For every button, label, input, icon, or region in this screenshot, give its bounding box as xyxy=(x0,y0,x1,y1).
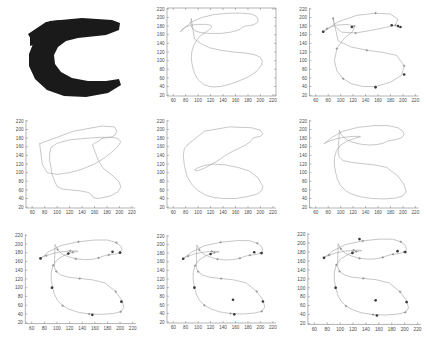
y-tick-label: 200 xyxy=(297,241,305,246)
y-tick-label: 80 xyxy=(159,179,165,184)
x-tick-label: 200 xyxy=(257,325,265,330)
x-tick-label: 220 xyxy=(269,98,277,103)
y-tick-label: 20 xyxy=(159,205,165,210)
y-tick-label: 140 xyxy=(299,41,307,46)
x-tick-label: 160 xyxy=(374,210,382,215)
keypoint-marker xyxy=(262,300,265,303)
y-tick-label: 60 xyxy=(159,76,165,81)
y-tick-label: 20 xyxy=(302,93,308,98)
x-axis-ticks: 6080100120140160180200220 xyxy=(171,321,277,330)
y-tick-label: 20 xyxy=(18,320,24,325)
keypoint-marker xyxy=(405,301,408,304)
y-tick-label: 220 xyxy=(299,7,307,12)
y-tick-label: 80 xyxy=(159,67,165,72)
y-tick-label: 40 xyxy=(302,196,308,201)
x-axis-ticks: 6080100120140160180200220 xyxy=(312,322,422,331)
x-tick-label: 60 xyxy=(29,326,35,331)
x-tick-label: 160 xyxy=(374,98,382,103)
series-reconstructed-contour xyxy=(183,241,265,314)
x-tick-label: 100 xyxy=(53,210,61,215)
keypoint-marker xyxy=(403,73,406,76)
x-tick-label: 220 xyxy=(414,327,422,332)
keypoint-marker xyxy=(334,286,337,289)
x-tick-label: 200 xyxy=(257,98,265,103)
y-tick-label: 180 xyxy=(157,251,165,256)
x-tick-label: 80 xyxy=(325,327,331,332)
axis-frame xyxy=(167,120,276,208)
y-tick-label: 200 xyxy=(157,242,165,247)
plot-panel-9: 2040608010012014016018020022060801001201… xyxy=(282,224,427,342)
keypoint-marker xyxy=(111,250,114,253)
x-tick-label: 220 xyxy=(269,210,277,215)
y-tick-label: 140 xyxy=(297,268,305,273)
x-tick-label: 180 xyxy=(387,210,395,215)
x-tick-label: 200 xyxy=(257,210,265,215)
y-tick-label: 40 xyxy=(18,196,24,201)
grid-cell-5: 2040608010012014016018020022060801001201… xyxy=(142,112,282,224)
series-smoothed-contour xyxy=(324,126,406,199)
x-tick-label: 60 xyxy=(171,210,177,215)
x-tick-label: 180 xyxy=(104,326,112,331)
y-tick-label: 200 xyxy=(299,15,307,20)
x-tick-label: 200 xyxy=(116,210,124,215)
plot-panel-6: 2040608010012014016018020022060801001201… xyxy=(282,112,427,224)
x-tick-label: 140 xyxy=(78,326,86,331)
x-axis-ticks: 6080100120140160180200220 xyxy=(313,206,419,215)
x-tick-label: 60 xyxy=(171,325,177,330)
x-tick-label: 220 xyxy=(129,326,137,331)
y-tick-label: 220 xyxy=(299,119,307,124)
keypoint-marker xyxy=(322,30,325,33)
x-tick-label: 160 xyxy=(91,326,99,331)
plot-panel-5: 2040608010012014016018020022060801001201… xyxy=(142,112,282,224)
x-tick-label: 200 xyxy=(116,326,124,331)
y-tick-label: 120 xyxy=(16,162,24,167)
keypoint-marker xyxy=(260,252,263,255)
keypoint-marker xyxy=(374,86,377,89)
keypoint-marker xyxy=(182,257,185,260)
y-tick-label: 160 xyxy=(157,32,165,37)
y-tick-label: 80 xyxy=(302,179,308,184)
keypoint-marker xyxy=(390,24,393,27)
y-tick-label: 120 xyxy=(299,50,307,55)
y-tick-label: 200 xyxy=(157,127,165,132)
y-tick-label: 140 xyxy=(157,153,165,158)
y-tick-label: 100 xyxy=(157,170,165,175)
x-tick-label: 180 xyxy=(244,325,252,330)
x-tick-label: 180 xyxy=(244,98,252,103)
plot-panel-3: 2040608010012014016018020022060801001201… xyxy=(282,0,427,112)
grid-cell-1 xyxy=(0,0,142,112)
y-tick-label: 120 xyxy=(157,162,165,167)
x-tick-label: 100 xyxy=(194,210,202,215)
keypoint-marker xyxy=(351,252,354,255)
y-tick-label: 140 xyxy=(157,41,165,46)
arabic-glyph-icon xyxy=(20,14,124,100)
y-tick-label: 200 xyxy=(157,15,165,20)
y-tick-label: 100 xyxy=(157,285,165,290)
y-tick-label: 140 xyxy=(16,153,24,158)
y-tick-label: 220 xyxy=(157,234,165,239)
x-axis-ticks: 6080100120140160180200220 xyxy=(171,94,277,103)
x-tick-label: 220 xyxy=(412,210,420,215)
x-tick-label: 60 xyxy=(312,327,318,332)
keypoint-marker xyxy=(209,253,212,256)
x-tick-label: 160 xyxy=(91,210,99,215)
y-tick-label: 220 xyxy=(297,232,305,237)
keypoint-marker xyxy=(91,313,94,316)
keypoint-marker xyxy=(119,251,122,254)
x-axis-ticks: 6080100120140160180200220 xyxy=(30,206,136,215)
keypoint-marker xyxy=(233,313,236,316)
keypoint-marker xyxy=(67,252,70,255)
x-tick-label: 140 xyxy=(219,210,227,215)
series-markers xyxy=(182,242,262,315)
y-tick-label: 180 xyxy=(16,136,24,141)
x-tick-label: 120 xyxy=(66,326,74,331)
y-tick-label: 180 xyxy=(299,24,307,29)
y-tick-label: 220 xyxy=(15,233,23,238)
keypoint-marker xyxy=(51,286,54,289)
keypoint-marker xyxy=(358,238,361,241)
y-tick-label: 60 xyxy=(302,188,308,193)
x-tick-label: 160 xyxy=(375,327,383,332)
y-tick-label: 120 xyxy=(297,277,305,282)
x-tick-label: 100 xyxy=(194,98,202,103)
y-tick-label: 40 xyxy=(300,312,306,317)
